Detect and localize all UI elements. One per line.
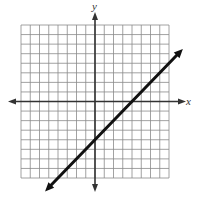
y-axis-down-arrow-icon	[92, 184, 98, 192]
axes	[8, 12, 186, 192]
coordinate-plane	[0, 0, 202, 198]
x-axis-right-arrow-icon	[178, 99, 186, 105]
plotted-line	[45, 49, 183, 191]
y-axis-up-arrow-icon	[92, 12, 98, 20]
x-axis-left-arrow-icon	[8, 99, 16, 105]
y-axis-label: y	[92, 1, 97, 12]
x-axis-label: x	[186, 96, 191, 107]
